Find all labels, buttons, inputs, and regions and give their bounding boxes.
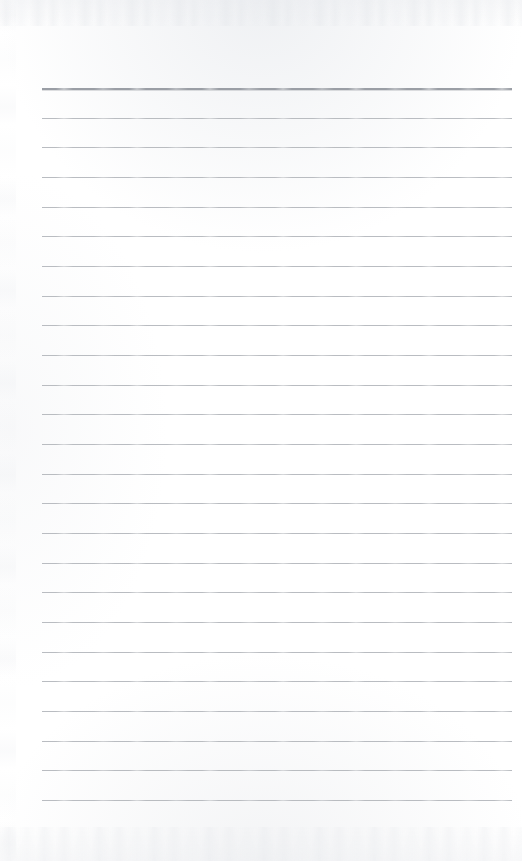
rule-line	[42, 681, 512, 682]
rule-line	[42, 147, 512, 148]
rule-line	[42, 800, 512, 801]
rule-line	[42, 325, 512, 326]
rule-line	[42, 118, 512, 119]
rule-line	[42, 770, 512, 771]
rule-line	[42, 414, 512, 415]
rule-line	[42, 266, 512, 267]
rule-line	[42, 474, 512, 475]
ruled-lines-layer	[0, 0, 522, 861]
scanned-page	[0, 0, 522, 861]
rule-line	[42, 236, 512, 237]
rule-line	[42, 652, 512, 653]
rule-line	[42, 444, 512, 445]
rule-line	[42, 177, 512, 178]
rule-line	[42, 385, 512, 386]
rule-line	[42, 207, 512, 208]
rule-line	[42, 296, 512, 297]
rule-line	[42, 592, 512, 593]
rule-line	[42, 563, 512, 564]
rule-line	[42, 711, 512, 712]
rule-line	[42, 355, 512, 356]
rule-line	[42, 503, 512, 504]
header-rule-line	[42, 88, 512, 90]
rule-line	[42, 622, 512, 623]
rule-line	[42, 533, 512, 534]
rule-line	[42, 741, 512, 742]
